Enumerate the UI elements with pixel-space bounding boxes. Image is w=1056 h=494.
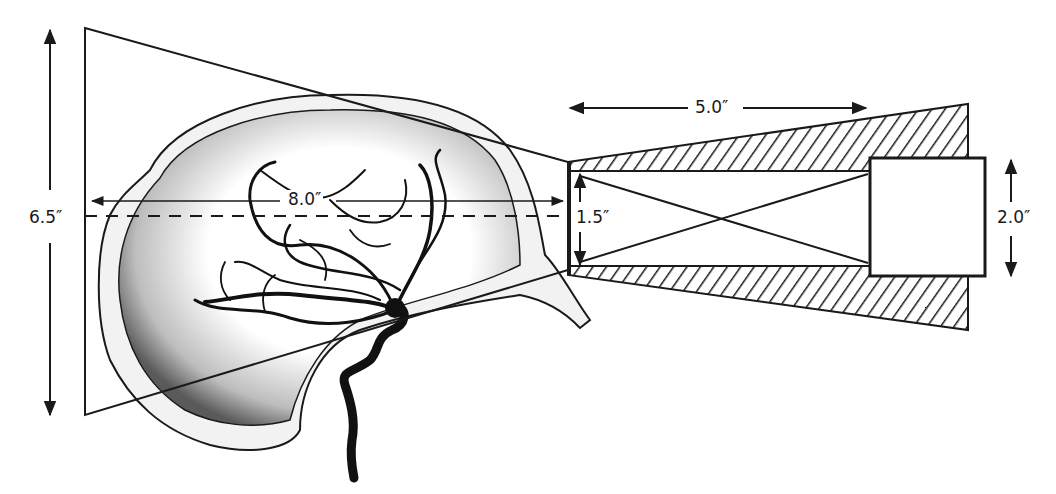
- detector-box: [870, 158, 985, 276]
- diagram-canvas: [0, 0, 1056, 494]
- collimator: [568, 104, 985, 330]
- label-collimator-length: 5.0″: [693, 98, 730, 116]
- label-detector-height: 2.0″: [995, 208, 1032, 226]
- carotid-siphon: [385, 298, 405, 318]
- label-field-height: 6.5″: [27, 208, 64, 226]
- collimator-aperture-face: [568, 162, 571, 275]
- label-object-distance: 8.0″: [286, 190, 323, 208]
- label-aperture: 1.5″: [574, 208, 611, 226]
